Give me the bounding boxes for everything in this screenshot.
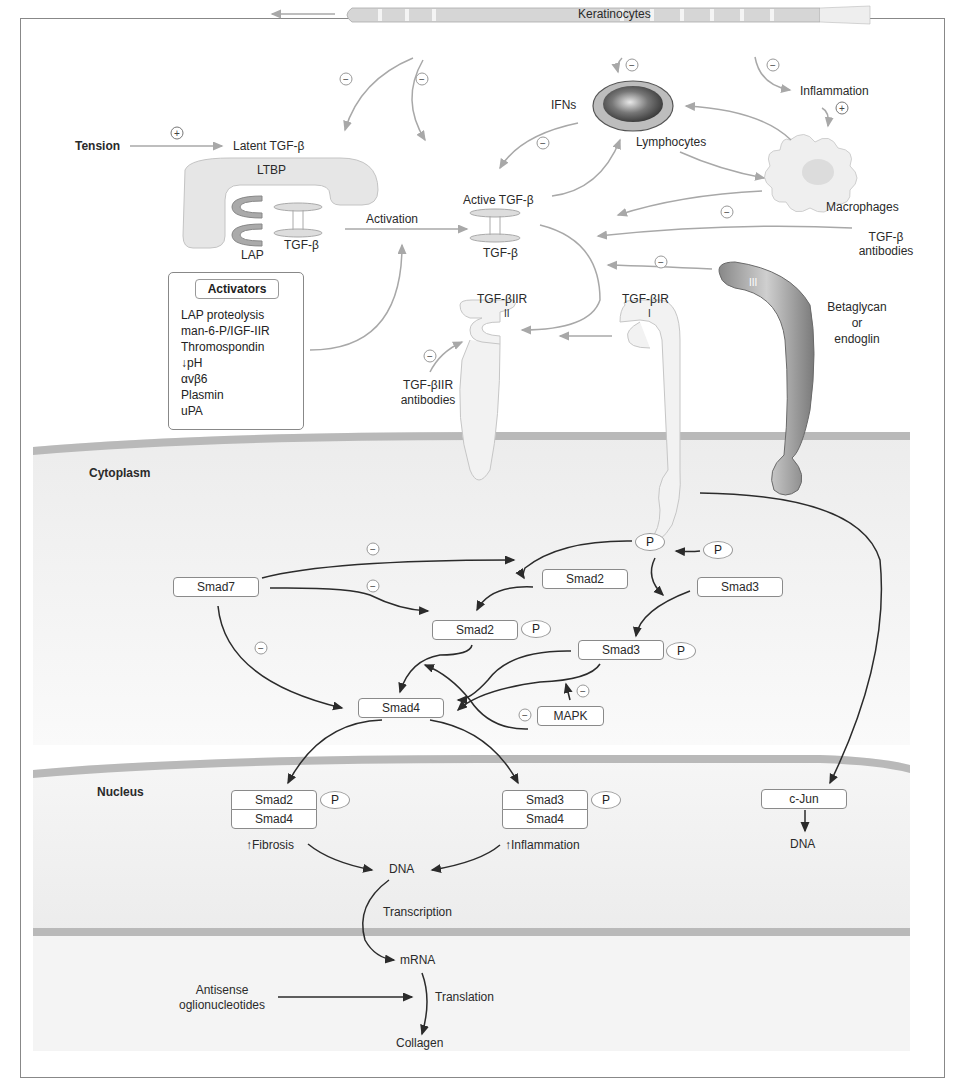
smad3-node: Smad3 [697, 577, 783, 597]
lap-label: LAP [241, 248, 264, 262]
svg-text:−: − [770, 60, 776, 71]
smad4-node: Smad4 [358, 698, 444, 718]
cytoplasm-label: Cytoplasm [89, 466, 150, 480]
latent-tgfb-dimer-label: TGF-β [284, 238, 319, 252]
phospho-badge: P [666, 642, 696, 660]
svg-text:−: − [540, 138, 546, 149]
smad2-phospho-node: Smad2 [432, 620, 518, 640]
minus-icon: − [367, 543, 379, 555]
nuclear-smad4-b: Smad4 [502, 809, 588, 829]
activator-item: LAP proteolysis [181, 307, 270, 323]
betaglycan-label-2: or [852, 316, 863, 330]
minus-icon: − [367, 580, 379, 592]
minus-icon: − [519, 709, 531, 721]
activation-label: Activation [366, 212, 418, 226]
phospho-badge: P [320, 791, 350, 809]
inflammation-label: Inflammation [800, 84, 869, 98]
activator-item: ↓pH [181, 355, 270, 371]
phospho-badge-free: P [703, 541, 733, 559]
phospho-badge: P [521, 620, 551, 638]
svg-text:+: + [839, 103, 845, 114]
type2-numeral: II [504, 307, 510, 321]
nuclear-inflammation-label: ↑Inflammation [505, 838, 580, 852]
tension-label: Tension [75, 139, 120, 153]
antisense-label-1: Antisense [196, 983, 249, 997]
activators-title: Activators [195, 279, 279, 299]
nuclear-smad3: Smad3 [502, 790, 588, 810]
svg-text:−: − [658, 257, 664, 268]
svg-text:−: − [629, 60, 635, 71]
svg-text:−: − [724, 207, 730, 218]
phospho-badge: P [591, 791, 621, 809]
collagen-label: Collagen [396, 1036, 443, 1050]
mapk-node: MAPK [537, 706, 604, 726]
minus-icon: − [424, 350, 436, 362]
dna-label: DNA [389, 862, 414, 876]
betaglycan-label-3: endoglin [834, 332, 879, 346]
svg-text:−: − [580, 686, 586, 697]
mrna-label: mRNA [400, 953, 435, 967]
svg-text:−: − [419, 74, 425, 85]
keratinocytes-label: Keratinocytes [578, 7, 651, 21]
minus-icon: − [255, 642, 267, 654]
smad3-phospho-node: Smad3 [578, 640, 664, 660]
plus-icon: + [171, 127, 183, 139]
macrophages-label: Macrophages [826, 200, 899, 214]
antisense-label-2: oglionucleotides [179, 998, 265, 1012]
minus-icon: − [626, 59, 638, 71]
minus-icon: − [577, 685, 589, 697]
svg-text:−: − [370, 581, 376, 592]
diagram-canvas: − − − − + + − − − − − − − − − Keratinocy… [0, 0, 966, 1091]
minus-icon: − [416, 73, 428, 85]
cjun-node: c-Jun [761, 789, 847, 809]
lymphocyte-cell [593, 81, 673, 131]
activator-item: man-6-P/IGF-IIR [181, 323, 270, 339]
nuclear-smad4-a: Smad4 [231, 809, 317, 829]
active-tgfb-label: Active TGF-β [463, 193, 534, 207]
ltbp-label: LTBP [257, 163, 286, 177]
active-tgfb-dimer-label: TGF-β [483, 246, 518, 260]
svg-text:−: − [343, 74, 349, 85]
transcription-label: Transcription [383, 905, 452, 919]
activator-item: αvβ6 [181, 371, 270, 387]
nucleus-label: Nucleus [97, 785, 144, 799]
ifns-label: IFNs [551, 98, 576, 112]
tgfbiir-antibodies-label-1: TGF-βIIR [403, 378, 453, 392]
tgfbiir-antibodies-label-2: antibodies [401, 393, 456, 407]
latent-tgfb-label: Latent TGF-β [233, 139, 304, 153]
nucleus-compartment [33, 755, 910, 936]
minus-icon: − [537, 137, 549, 149]
minus-icon: − [340, 73, 352, 85]
svg-text:+: + [174, 128, 180, 139]
phospho-badge-receptor: P [635, 533, 665, 551]
cjun-dna-label: DNA [790, 837, 815, 851]
svg-text:−: − [258, 643, 264, 654]
minus-icon: − [721, 206, 733, 218]
tgfbir-label: TGF-βIR [622, 292, 669, 306]
fibrosis-label: ↑Fibrosis [246, 838, 294, 852]
type1-numeral: I [648, 307, 651, 321]
minus-icon: − [655, 256, 667, 268]
diagram-graphics: − − − − + + − − − − − − − − − [0, 0, 966, 1091]
svg-text:−: − [522, 710, 528, 721]
smad7-node: Smad7 [173, 577, 259, 597]
betaglycan-label-1: Betaglycan [827, 300, 886, 314]
activators-box: Activators LAP proteolysis man-6-P/IGF-I… [168, 272, 304, 430]
type3-numeral: III [749, 276, 757, 290]
translation-label: Translation [435, 990, 494, 1004]
activator-item: Plasmin [181, 387, 270, 403]
lymphocytes-label: Lymphocytes [636, 135, 706, 149]
tgfb-antibodies-label-1: TGF-β [869, 230, 904, 244]
smad2-node: Smad2 [542, 569, 628, 589]
activator-item: uPA [181, 403, 270, 419]
tgfbiir-label: TGF-βIIR [477, 292, 527, 306]
activator-item: Thromospondin [181, 339, 270, 355]
plus-icon: + [836, 102, 848, 114]
nuclear-smad2: Smad2 [231, 790, 317, 810]
activators-list: LAP proteolysis man-6-P/IGF-IIR Thromosp… [181, 307, 270, 419]
minus-icon: − [767, 59, 779, 71]
svg-text:−: − [370, 544, 376, 555]
svg-text:−: − [427, 351, 433, 362]
active-tgfb-dimer [470, 209, 520, 242]
tgfb-antibodies-label-2: antibodies [859, 244, 914, 258]
